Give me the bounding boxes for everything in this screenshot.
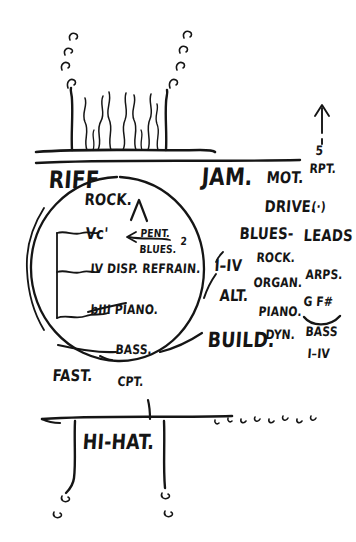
right-item-organ: ORGAN. xyxy=(253,276,303,289)
riff-heading: RIFF xyxy=(48,168,100,192)
jam-heading: JAM. xyxy=(201,165,253,189)
right-b-leads: LEADS xyxy=(303,228,353,244)
center-item-i-iv: I–IV xyxy=(214,258,243,274)
bubble-trail-right xyxy=(169,31,191,88)
left-item-iv-disp-refrain: IV DISP. REFRAIN. xyxy=(90,262,201,275)
right-b-g-fsharp: G F# xyxy=(303,295,334,308)
upper-rule xyxy=(36,160,300,163)
right-item-rock: ROCK. xyxy=(256,251,296,264)
wavy-flame-figure xyxy=(36,88,215,152)
hi-hat-figure xyxy=(42,400,316,518)
bass-pointer-right xyxy=(160,333,202,352)
arrow-rpt-label: RPT. xyxy=(309,162,336,175)
right-item-blues: BLUES- xyxy=(239,226,294,242)
callout-pent: PENT. xyxy=(140,228,170,239)
alt-tick xyxy=(204,274,216,298)
bass-pointer-left xyxy=(58,345,116,352)
arrow-count-label: 5 xyxy=(315,144,324,157)
right-b-i-iv: I–IV xyxy=(307,347,330,360)
right-b-arps: ARPS. xyxy=(305,268,343,281)
left-item-rock: ROCK. xyxy=(84,192,133,208)
right-item-dyn: DYN. xyxy=(265,328,296,341)
left-item-vc: Vc' xyxy=(85,226,109,242)
caret-mark xyxy=(131,200,147,221)
right-item-drive-dot: (·) xyxy=(311,200,326,213)
right-item-piano: PIANO. xyxy=(258,305,302,318)
right-b-bass: BASS xyxy=(305,325,338,338)
hi-hat-label: HI-HAT. xyxy=(82,432,155,453)
sketch-page: 5 RPT. RIFF ROCK. Vc' IV DISP. REFRAIN. … xyxy=(0,0,356,542)
right-item-drive: DRIVE. xyxy=(264,199,317,215)
left-item-bass: BASS. xyxy=(115,343,152,356)
center-item-alt: ALT. xyxy=(219,288,249,304)
bubble-trail-left xyxy=(61,33,77,88)
left-item-biii-piano: bIII PIANO. xyxy=(90,303,159,316)
note-cpt: CPT. xyxy=(117,375,144,388)
callout-blues: BLUES. xyxy=(139,244,177,255)
callout-number: 2 xyxy=(180,236,187,247)
right-item-mot: MOT. xyxy=(266,170,304,186)
note-fast: FAST. xyxy=(52,368,93,384)
up-arrow-marker xyxy=(315,105,329,144)
